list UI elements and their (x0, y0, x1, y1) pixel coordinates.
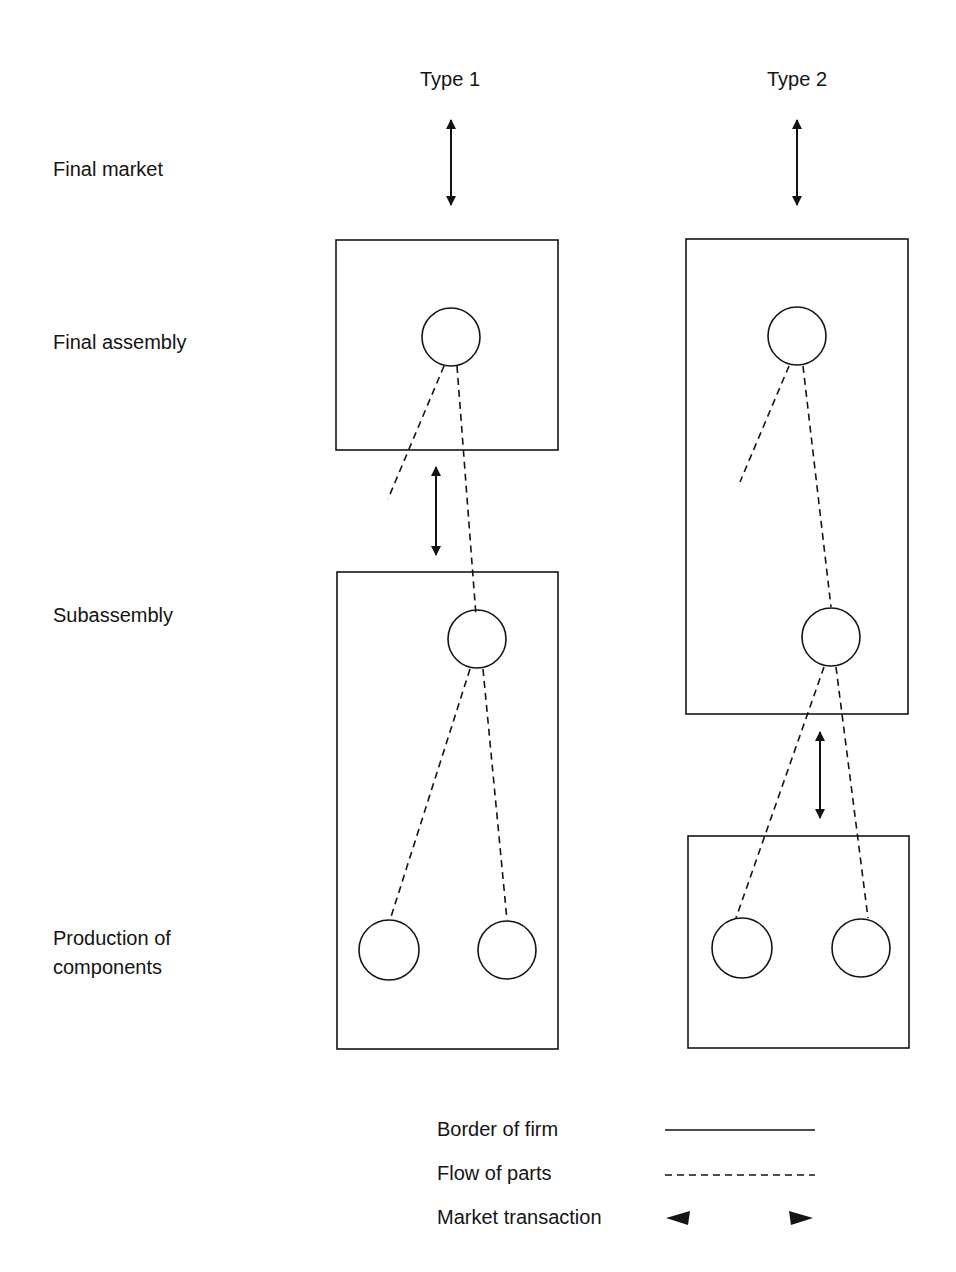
type1-flow-to-component-left (390, 669, 470, 920)
type1-subassembly-firm-border (337, 572, 558, 1049)
type2-components-firm-border (688, 836, 909, 1048)
type1-component-node-right (478, 921, 536, 979)
type2-flow-dangling (740, 366, 789, 482)
type2-component-node-left (712, 918, 772, 978)
type2-assembly-firm-border (686, 239, 908, 714)
type1-final-assembly-node (422, 308, 480, 366)
type1-flow-to-component-right (483, 669, 507, 920)
type1-component-node-left (359, 920, 419, 980)
type2-flow-to-component-right (836, 667, 868, 918)
type1-flow-to-subassembly (457, 366, 476, 616)
type2-component-node-right (832, 919, 890, 977)
diagram-canvas (0, 0, 956, 1272)
type2-subassembly-node (802, 608, 860, 666)
type1-subassembly-node (448, 610, 506, 668)
type2-final-assembly-node (768, 307, 826, 365)
legend-market-arrowhead-right (789, 1211, 813, 1225)
type1-final-assembly-firm-border (336, 240, 558, 450)
legend-market-arrowhead-left (666, 1211, 690, 1225)
type2-flow-to-subassembly (803, 366, 831, 607)
type2-flow-to-component-left (736, 667, 824, 918)
